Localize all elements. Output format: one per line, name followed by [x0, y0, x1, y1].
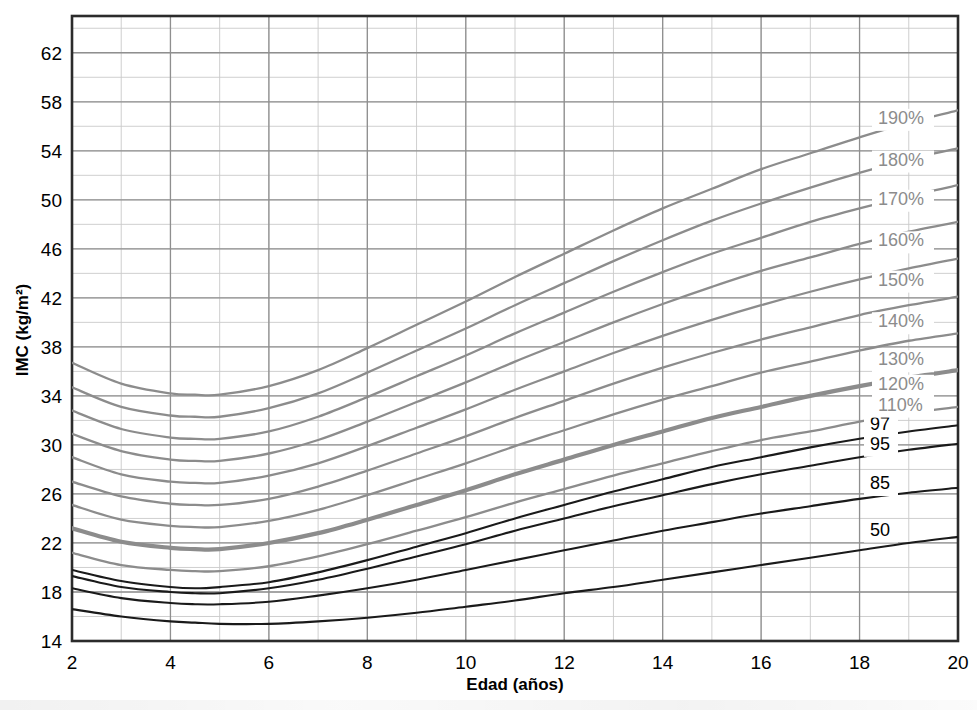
series-label-85: 85	[870, 473, 890, 493]
x-tick-label: 16	[751, 652, 772, 673]
y-tick-labels: 14182226303438424650545862	[41, 43, 63, 652]
y-tick-label: 50	[41, 190, 62, 211]
y-tick-label: 18	[41, 582, 62, 603]
minor-gridlines	[72, 16, 958, 641]
y-tick-label: 38	[41, 337, 62, 358]
x-tick-label: 10	[455, 652, 476, 673]
x-axis-title: Edad (años)	[466, 675, 563, 694]
scan-artifact	[0, 700, 977, 710]
y-tick-label: 26	[41, 484, 62, 505]
bmi-growth-chart: 2468101214161820 14182226303438424650545…	[0, 0, 977, 710]
x-tick-label: 2	[67, 652, 78, 673]
x-tick-labels: 2468101214161820	[67, 652, 969, 673]
x-tick-label: 14	[652, 652, 674, 673]
y-tick-label: 42	[41, 288, 62, 309]
x-tick-label: 12	[554, 652, 575, 673]
series-label-190pct: 190%	[878, 108, 924, 128]
series-label-120pct: 120%	[878, 374, 924, 394]
x-tick-label: 6	[264, 652, 275, 673]
series-label-110pct: 110%	[878, 395, 923, 415]
series-label-150pct: 150%	[878, 270, 924, 290]
series-label-140pct: 140%	[878, 311, 924, 331]
series-label-160pct: 160%	[878, 230, 924, 250]
y-tick-label: 62	[41, 43, 62, 64]
x-tick-label: 4	[165, 652, 176, 673]
y-tick-label: 46	[41, 239, 62, 260]
series-label-50: 50	[870, 520, 890, 540]
y-tick-label: 58	[41, 92, 62, 113]
y-tick-label: 30	[41, 435, 62, 456]
series-label-180pct: 180%	[878, 150, 924, 170]
x-tick-label: 20	[947, 652, 968, 673]
x-tick-label: 8	[362, 652, 373, 673]
y-tick-label: 34	[41, 386, 63, 407]
x-tick-label: 18	[849, 652, 870, 673]
series-label-130pct: 130%	[878, 349, 924, 369]
series-labels: 50859597110%120%130%140%150%160%170%180%…	[864, 108, 934, 543]
chart-page: 2468101214161820 14182226303438424650545…	[0, 0, 977, 710]
y-tick-label: 14	[41, 631, 63, 652]
series-label-170pct: 170%	[878, 189, 924, 209]
y-tick-label: 54	[41, 141, 63, 162]
y-axis-title: IMC (kg/m²)	[13, 284, 32, 377]
y-tick-label: 22	[41, 533, 62, 554]
